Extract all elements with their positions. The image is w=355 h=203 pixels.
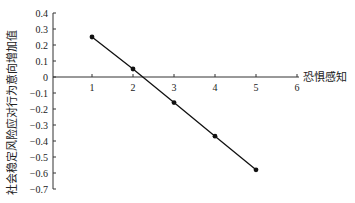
x-tick-label: 6: [295, 82, 300, 93]
y-tick-label: −0.1: [30, 88, 48, 99]
data-point: [131, 67, 136, 72]
x-tick-label: 2: [131, 82, 136, 93]
x-tick-label: 4: [213, 82, 218, 93]
y-tick-label: −0.2: [30, 104, 48, 115]
data-point: [90, 35, 95, 40]
x-axis-title: 恐惧感知: [303, 70, 347, 84]
y-tick-label: 0.4: [36, 8, 49, 19]
y-tick-label: 0.1: [36, 56, 49, 67]
y-tick-label: 0.2: [36, 40, 49, 51]
axes: 0.40.30.20.10−0.1−0.2−0.3−0.4−0.5−0.6−0.…: [30, 8, 300, 195]
y-axis-title: 社会稳定风险应对行为意向增加值: [5, 30, 19, 195]
y-tick-label: −0.4: [30, 136, 48, 147]
y-tick-label: 0.3: [36, 24, 49, 35]
y-tick-label: 0: [43, 72, 48, 83]
x-tick-label: 1: [90, 82, 95, 93]
chart: 0.40.30.20.10−0.1−0.2−0.3−0.4−0.5−0.6−0.…: [0, 0, 355, 203]
x-tick-label: 3: [172, 82, 177, 93]
y-tick-label: −0.5: [30, 152, 48, 163]
data-point: [213, 134, 218, 139]
data-point: [254, 167, 259, 172]
y-tick-label: −0.6: [30, 168, 48, 179]
data-point: [172, 100, 177, 105]
x-tick-label: 5: [254, 82, 259, 93]
plot-area: [90, 35, 259, 173]
y-tick-label: −0.3: [30, 120, 48, 131]
y-tick-label: −0.7: [30, 184, 48, 195]
